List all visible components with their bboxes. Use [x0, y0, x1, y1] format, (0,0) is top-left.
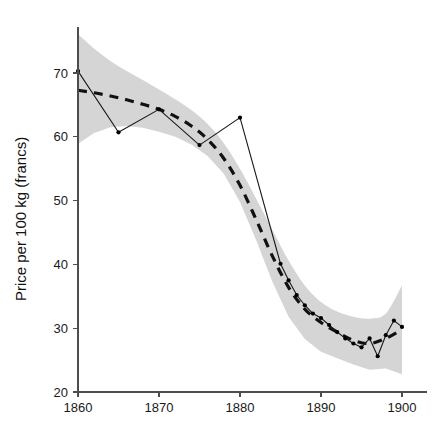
data-point — [238, 116, 242, 120]
data-point — [343, 336, 347, 340]
data-point — [400, 325, 404, 329]
y-tick-label: 40 — [54, 257, 68, 272]
x-tick-label: 1880 — [226, 400, 255, 415]
y-tick-label: 50 — [54, 193, 68, 208]
x-tick-label: 1900 — [388, 400, 417, 415]
data-point — [287, 278, 291, 282]
data-point — [351, 341, 355, 345]
data-point — [157, 107, 161, 111]
x-tick-label: 1860 — [64, 400, 93, 415]
data-point — [311, 311, 315, 315]
x-axis-ticks: 18601870188018901900 — [64, 392, 417, 415]
y-tick-label: 60 — [54, 129, 68, 144]
data-point — [335, 330, 339, 334]
x-tick-label: 1870 — [145, 400, 174, 415]
data-point — [197, 143, 201, 147]
y-tick-label: 70 — [54, 66, 68, 81]
data-point — [384, 333, 388, 337]
y-axis-ticks: 203040506070 — [54, 66, 78, 400]
data-point — [295, 293, 299, 297]
y-axis-title: Price per 100 kg (francs) — [12, 137, 29, 301]
data-point — [327, 323, 331, 327]
price-trend-chart: 203040506070 18601870188018901900 Price … — [0, 0, 440, 439]
x-tick-label: 1890 — [307, 400, 336, 415]
data-point — [359, 345, 363, 349]
y-tick-label: 20 — [54, 385, 68, 400]
data-point — [392, 318, 396, 322]
data-point — [278, 262, 282, 266]
chart-canvas: 203040506070 18601870188018901900 Price … — [0, 0, 440, 439]
data-point — [303, 303, 307, 307]
data-point — [368, 336, 372, 340]
data-point — [319, 316, 323, 320]
data-point — [116, 130, 120, 134]
plot-area — [76, 34, 404, 374]
confidence-interval-band — [78, 34, 402, 374]
y-tick-label: 30 — [54, 321, 68, 336]
data-point — [376, 354, 380, 358]
